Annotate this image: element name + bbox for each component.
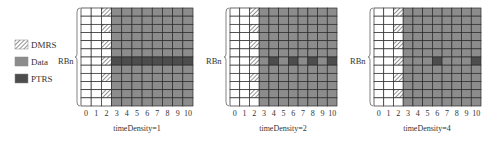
re-cell-empty — [249, 65, 259, 73]
re-cell-data — [413, 33, 423, 41]
re-cell-data — [462, 90, 472, 98]
re-cell-data — [327, 49, 337, 57]
re-cell-data — [471, 65, 481, 73]
re-cell-data — [462, 41, 472, 49]
re-cell-data — [279, 82, 289, 90]
re-cell-empty — [384, 73, 394, 81]
re-cell-data — [403, 24, 413, 32]
re-cell-data — [162, 24, 172, 32]
re-cell-empty — [393, 82, 403, 90]
re-cell-data — [259, 24, 269, 32]
re-cell-data — [423, 65, 433, 73]
rb-label: RBn — [206, 56, 222, 66]
re-cell-empty — [230, 90, 240, 98]
re-cell-data — [423, 57, 433, 65]
re-cell-data — [132, 65, 142, 73]
re-cell-data — [327, 41, 337, 49]
re-cell-dmrs — [393, 24, 403, 32]
re-cell-data — [173, 98, 183, 106]
re-cell-dmrs — [393, 73, 403, 81]
re-cell-data — [173, 16, 183, 24]
re-cell-data — [132, 16, 142, 24]
re-cell-data — [112, 41, 122, 49]
re-cell-data — [122, 33, 132, 41]
re-cell-data — [152, 73, 162, 81]
re-cell-empty — [240, 49, 250, 57]
re-cell-empty — [91, 73, 101, 81]
re-cell-data — [442, 65, 452, 73]
re-cell-data — [413, 90, 423, 98]
re-cell-data — [452, 98, 462, 106]
symbol-index-label: 2 — [396, 109, 400, 118]
re-cell-data — [279, 49, 289, 57]
re-cell-data — [269, 65, 279, 73]
re-cell-data — [432, 24, 442, 32]
re-cell-empty — [249, 16, 259, 24]
re-cell-dmrs — [249, 8, 259, 16]
re-cell-data — [142, 41, 152, 49]
re-cell-empty — [81, 33, 91, 41]
re-cell-data — [462, 65, 472, 73]
re-cell-data — [298, 73, 308, 81]
re-cell-data — [423, 8, 433, 16]
re-cell-data — [259, 73, 269, 81]
re-cell-data — [462, 98, 472, 106]
re-cell-data — [142, 49, 152, 57]
re-cell-dmrs — [249, 90, 259, 98]
re-cell-empty — [384, 82, 394, 90]
re-cell-data — [423, 49, 433, 57]
re-cell-data — [403, 98, 413, 106]
re-cell-data — [298, 90, 308, 98]
re-cell-data — [432, 98, 442, 106]
legend: DMRS Data PTRS — [15, 40, 57, 84]
re-cell-data — [327, 8, 337, 16]
re-cell-ptrs — [173, 57, 183, 65]
ptrs-swatch — [15, 74, 28, 83]
symbol-index-label: 2 — [252, 109, 256, 118]
re-cell-empty — [240, 33, 250, 41]
re-cell-data — [318, 8, 328, 16]
re-cell-empty — [374, 16, 384, 24]
re-cell-data — [162, 49, 172, 57]
re-cell-empty — [249, 49, 259, 57]
re-cell-data — [279, 41, 289, 49]
re-cell-data — [318, 41, 328, 49]
re-cell-data — [162, 8, 172, 16]
re-cell-data — [298, 41, 308, 49]
re-cell-data — [142, 16, 152, 24]
re-cell-dmrs — [249, 24, 259, 32]
re-cell-empty — [384, 33, 394, 41]
re-cell-empty — [240, 73, 250, 81]
re-cell-data — [423, 16, 433, 24]
re-cell-data — [471, 73, 481, 81]
re-cell-empty — [384, 98, 394, 106]
re-cell-data — [403, 49, 413, 57]
re-cell-data — [288, 8, 298, 16]
re-cell-data — [288, 73, 298, 81]
re-cell-data — [183, 98, 193, 106]
re-cell-data — [432, 82, 442, 90]
re-cell-data — [142, 24, 152, 32]
re-cell-data — [432, 49, 442, 57]
re-cell-data — [298, 49, 308, 57]
re-cell-data — [288, 49, 298, 57]
re-cell-empty — [240, 65, 250, 73]
re-cell-empty — [81, 82, 91, 90]
rb-brace — [368, 8, 373, 106]
re-cell-data — [288, 82, 298, 90]
re-cell-data — [423, 41, 433, 49]
symbol-index-label: 8 — [455, 109, 459, 118]
re-cell-empty — [230, 49, 240, 57]
re-cell-data — [132, 41, 142, 49]
re-cell-data — [122, 24, 132, 32]
re-cell-data — [471, 41, 481, 49]
re-cell-ptrs — [142, 57, 152, 65]
symbol-index-label: 5 — [282, 109, 286, 118]
re-cell-data — [308, 16, 318, 24]
re-cell-data — [183, 65, 193, 73]
panel-time-density-2: RBn timeDensity=2 012345678910 — [206, 8, 337, 133]
re-cell-data — [432, 16, 442, 24]
re-cell-data — [183, 90, 193, 98]
re-cell-data — [132, 90, 142, 98]
re-cell-data — [298, 33, 308, 41]
